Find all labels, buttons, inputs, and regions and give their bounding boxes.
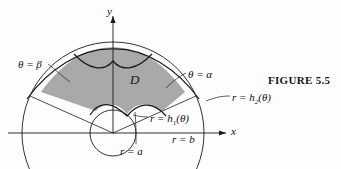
h1-label-arg: (θ) [176,112,189,124]
h1-label-main: r = h [150,112,173,124]
r-equals-a-label: r = a [120,146,143,157]
y-axis-arrowhead [110,16,115,23]
x-axis-label: x [231,126,236,137]
h2-label-main: r = h [232,91,255,103]
figure-caption: FIGURE 5.5 [268,74,330,86]
h1-curve-label: r = h1(θ) [150,113,189,127]
region-d-label: D [130,73,139,86]
theta-alpha-label: θ = α [188,69,212,80]
y-axis-label: y [107,6,112,17]
r-equals-b-label: r = b [172,134,195,145]
x-axis-arrowhead [219,130,226,135]
theta-beta-label: θ = β [18,59,42,70]
h2-label-arg: (θ) [258,91,271,103]
h2-curve-label: r = h2(θ) [232,92,271,106]
leader-h2 [206,96,230,101]
figure-container: y x D θ = β θ = α r = h2(θ) r = h1(θ) r … [0,0,341,169]
